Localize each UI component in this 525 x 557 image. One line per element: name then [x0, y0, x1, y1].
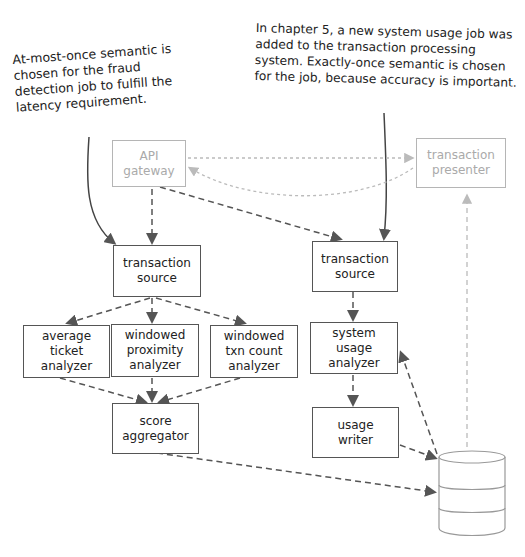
transaction-presenter-node: transaction presenter — [416, 138, 506, 188]
presenter-to-gateway-arrow — [190, 168, 413, 196]
windowed-txn-count-analyzer-node: windowed txn count analyzer — [210, 325, 298, 378]
source-to-txn-count-arrow — [156, 298, 244, 323]
aggregator-to-database-arrow — [157, 453, 434, 492]
api-gateway-node: API gateway — [112, 140, 186, 187]
annotation-at-most-once: At-most-once semantic is chosen for the … — [12, 40, 186, 116]
gateway-to-usage-source-arrow — [160, 187, 340, 239]
annotation-pointer-left — [88, 137, 114, 243]
average-ticket-analyzer-node: average ticket analyzer — [23, 325, 110, 378]
usage-transaction-source-node: transaction source — [312, 241, 398, 292]
writer-to-database-arrow — [400, 445, 435, 458]
windowed-proximity-analyzer-node: windowed proximity analyzer — [111, 324, 199, 377]
usage-writer-node: usage writer — [312, 407, 399, 458]
system-usage-analyzer-node: system usage analyzer — [310, 322, 398, 374]
annotation-exactly-once: In chapter 5, a new system usage job was… — [254, 20, 525, 91]
txn-count-to-aggregator-arrow — [160, 378, 240, 402]
annotation-pointer-right — [384, 113, 386, 238]
database-icon — [439, 451, 505, 536]
source-to-average-ticket-arrow — [68, 298, 150, 323]
database-to-usage-analyzer-arrow — [401, 353, 437, 454]
fraud-transaction-source-node: transaction source — [113, 245, 201, 297]
score-aggregator-node: score aggregator — [112, 403, 199, 454]
average-ticket-to-aggregator-arrow — [60, 378, 145, 402]
